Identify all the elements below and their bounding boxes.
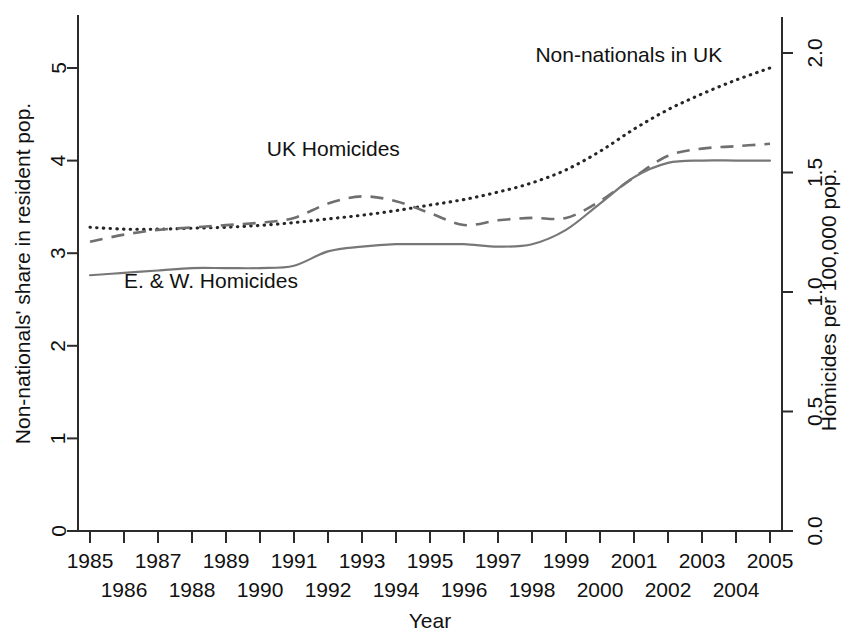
axes-group: 0123450.00.51.01.52.01985198619871988198…	[47, 16, 826, 601]
x-axis-tick-label: 2003	[679, 549, 726, 572]
labels-group: Non-nationals' share in resident pop.Hom…	[11, 43, 840, 632]
series-annotation: E. & W. Homicides	[124, 269, 298, 292]
x-axis-tick-label: 1996	[441, 578, 488, 601]
x-axis-tick-label: 2001	[611, 549, 658, 572]
x-axis-tick-label: 1986	[101, 578, 148, 601]
series-line-solid	[90, 160, 770, 275]
x-axis-tick-label: 1985	[67, 549, 114, 572]
x-axis-tick-label: 1990	[237, 578, 284, 601]
x-axis-tick-label: 1994	[373, 578, 420, 601]
x-axis-tick-label: 1992	[305, 578, 352, 601]
x-axis-tick-label: 1991	[271, 549, 318, 572]
x-axis-tick-label: 2004	[713, 578, 760, 601]
x-axis-tick-label: 1997	[475, 549, 522, 572]
left-axis-tick-label: 1	[47, 433, 70, 445]
series-annotation: UK Homicides	[267, 137, 400, 160]
series-group	[90, 68, 770, 275]
x-axis-tick-label: 1993	[339, 549, 386, 572]
left-axis-tick-label: 0	[47, 525, 70, 537]
chart-svg: 0123450.00.51.01.52.01985198619871988198…	[0, 0, 847, 638]
left-axis-tick-label: 2	[47, 340, 70, 352]
x-axis-tick-label: 1999	[543, 549, 590, 572]
x-axis-tick-label: 1987	[135, 549, 182, 572]
series-annotation: Non-nationals in UK	[535, 43, 722, 66]
x-axis-tick-label: 1998	[509, 578, 556, 601]
x-axis-tick-label: 2002	[645, 578, 692, 601]
right-axis-tick-label: 2.0	[803, 38, 826, 67]
x-axis-title: Year	[409, 609, 451, 632]
x-axis-tick-label: 2005	[747, 549, 794, 572]
x-axis-tick-label: 2000	[577, 578, 624, 601]
x-axis-tick-label: 1995	[407, 549, 454, 572]
series-line-dotted	[90, 68, 770, 229]
left-axis-title: Non-nationals' share in resident pop.	[11, 103, 34, 444]
right-axis-tick-label: 0.0	[803, 516, 826, 545]
left-axis-tick-label: 5	[47, 62, 70, 74]
right-axis-title: Homicides per 100,000 pop.	[817, 169, 840, 432]
x-axis-tick-label: 1989	[203, 549, 250, 572]
left-axis-tick-label: 4	[47, 154, 70, 166]
chart-container: 0123450.00.51.01.52.01985198619871988198…	[0, 0, 847, 638]
x-axis-tick-label: 1988	[169, 578, 216, 601]
left-axis-tick-label: 3	[47, 247, 70, 259]
